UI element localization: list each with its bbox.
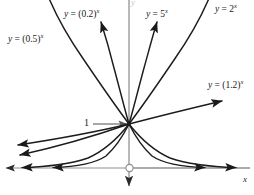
curve-0.2-right [129,124,205,168]
curve-label-2: y = 2x [215,3,237,15]
intersection-value-label: 1 [84,118,89,128]
axis-group [6,0,250,186]
curve-label-0.2: y = (0.2)x [64,8,99,20]
curve-group [18,0,236,168]
curve-0.833-left [20,124,129,155]
origin-marker [126,164,133,171]
curve-0.2 [101,22,129,124]
curve-label-1.2: y = (1.2)x [208,79,243,91]
curve-5-left [53,124,129,168]
curve-2 [129,0,210,124]
curve-2-left [22,124,129,168]
exponential-graph-figure: y = (0.5)x y = (0.2)x y = 5x y = 2x y = … [0,0,254,195]
curve-label-0.5: y = (0.5)x [8,33,43,45]
curve-5 [129,22,157,124]
y-axis-label: y [131,0,135,7]
curve-label-5: y = 5x [146,8,168,20]
x-axis-label: x [243,175,247,184]
graph-canvas [0,0,254,195]
curve-0.5-right [129,124,236,168]
common-intercept-point [127,122,131,126]
